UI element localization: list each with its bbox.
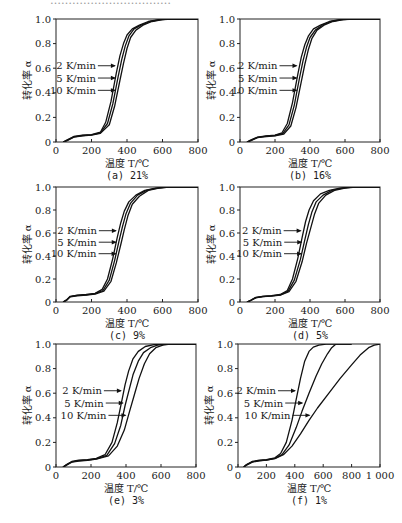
legend-label: 10 K/min bbox=[245, 410, 291, 421]
x-tick-label: 800 bbox=[186, 470, 205, 481]
y-tick-label: 1.0 bbox=[35, 182, 51, 193]
y-tick-label: 0 bbox=[45, 297, 51, 308]
y-tick-label: 0.2 bbox=[35, 274, 51, 285]
legend-label: 2 K/min bbox=[242, 225, 282, 236]
legend-label: 5 K/min bbox=[243, 237, 283, 248]
legend-label: 2 K/min bbox=[62, 385, 102, 396]
y-tick-label: 0.4 bbox=[219, 251, 235, 262]
x-tick-label: 400 bbox=[117, 305, 136, 316]
legend-label: 2 K/min bbox=[236, 385, 276, 396]
legend-label: 10 K/min bbox=[50, 85, 96, 96]
arrowhead-icon bbox=[117, 389, 122, 393]
y-tick-label: 0.8 bbox=[35, 363, 51, 374]
y-tick-label: 0.6 bbox=[35, 228, 51, 239]
x-tick-label: 600 bbox=[314, 470, 333, 481]
x-tick-label: 600 bbox=[153, 305, 172, 316]
x-tick-label: 200 bbox=[82, 305, 101, 316]
x-axis-label: 温度 T/℃ bbox=[104, 482, 148, 494]
x-axis-label: 温度 T/℃ bbox=[288, 157, 332, 169]
panel-caption: (c) 9% bbox=[109, 330, 145, 341]
arrowhead-icon bbox=[111, 64, 116, 68]
x-tick-label: 600 bbox=[335, 145, 354, 156]
x-tick-label: 0 bbox=[237, 145, 243, 156]
y-tick-label: 0.8 bbox=[219, 38, 235, 49]
y-tick-label: 0 bbox=[45, 137, 51, 148]
x-tick-label: 200 bbox=[265, 305, 284, 316]
panel-caption: (d) 5% bbox=[292, 330, 328, 341]
legend-label: 5 K/min bbox=[56, 73, 96, 84]
legend-label: 2 K/min bbox=[56, 60, 96, 71]
x-tick-label: 0 bbox=[53, 305, 59, 316]
x-tick-label: 600 bbox=[335, 305, 354, 316]
y-tick-label: 0 bbox=[229, 297, 235, 308]
figure-grid: 00.20.40.60.81.00200400600800温度 T/℃(a) 2… bbox=[0, 0, 402, 523]
x-axis-label: 温度 T/℃ bbox=[287, 482, 331, 494]
y-tick-label: 0.6 bbox=[219, 63, 235, 74]
y-tick-label: 0.2 bbox=[219, 112, 235, 123]
y-tick-label: 0.6 bbox=[35, 388, 51, 399]
legend-label: 2 K/min bbox=[57, 225, 97, 236]
chart-panel-b: 00.20.40.60.81.00200400600800温度 T/℃(b) 1… bbox=[205, 14, 390, 182]
x-axis-label: 温度 T/℃ bbox=[105, 317, 149, 329]
x-tick-label: 200 bbox=[265, 145, 284, 156]
y-tick-label: 1.0 bbox=[35, 14, 51, 25]
y-tick-label: 1.0 bbox=[217, 339, 233, 350]
y-tick-label: 0.4 bbox=[217, 412, 233, 423]
y-tick-label: 0.4 bbox=[35, 412, 51, 423]
arrowhead-icon bbox=[291, 389, 296, 393]
x-tick-label: 0 bbox=[237, 305, 243, 316]
y-axis-label: 转化率 α bbox=[205, 60, 217, 100]
x-tick-label: 800 bbox=[188, 145, 207, 156]
arrowhead-icon bbox=[298, 401, 303, 405]
chart-panel-f: 00.20.40.60.81.002004006008001 000温度 T/℃… bbox=[203, 339, 394, 507]
x-tick-label: 0 bbox=[53, 470, 59, 481]
x-tick-label: 400 bbox=[300, 305, 319, 316]
x-tick-label: 800 bbox=[342, 470, 361, 481]
panel-caption: (e) 3% bbox=[108, 495, 144, 506]
y-tick-label: 0.8 bbox=[217, 363, 233, 374]
x-axis-label: 温度 T/℃ bbox=[105, 157, 149, 169]
y-tick-label: 0.2 bbox=[217, 437, 233, 448]
legend-label: 5 K/min bbox=[64, 398, 104, 409]
y-tick-label: 0.2 bbox=[35, 437, 51, 448]
y-tick-label: 0.2 bbox=[219, 274, 235, 285]
chart-panel-e: 00.20.40.60.81.00200400600800温度 T/℃(e) 3… bbox=[21, 339, 206, 507]
x-axis-label: 温度 T/℃ bbox=[288, 317, 332, 329]
x-tick-label: 200 bbox=[81, 470, 100, 481]
y-tick-label: 0.2 bbox=[35, 112, 51, 123]
y-tick-label: 0.8 bbox=[219, 205, 235, 216]
x-tick-label: 600 bbox=[153, 145, 172, 156]
arrowhead-icon bbox=[112, 229, 117, 233]
y-tick-label: 0.6 bbox=[219, 228, 235, 239]
y-axis-label: 转化率 α bbox=[21, 224, 33, 264]
legend-label: 2 K/min bbox=[238, 60, 278, 71]
x-tick-label: 600 bbox=[151, 470, 170, 481]
y-tick-label: 0 bbox=[229, 137, 235, 148]
x-tick-label: 800 bbox=[370, 305, 389, 316]
y-tick-label: 0.6 bbox=[217, 388, 233, 399]
y-tick-label: 0.6 bbox=[35, 63, 51, 74]
y-tick-label: 0 bbox=[227, 462, 233, 473]
y-axis-label: 转化率 α bbox=[203, 385, 215, 425]
x-tick-label: 800 bbox=[370, 145, 389, 156]
x-tick-label: 1 000 bbox=[366, 470, 395, 481]
y-tick-label: 1.0 bbox=[35, 339, 51, 350]
chart-panel-d: 00.20.40.60.81.00200400600800温度 T/℃(d) 5… bbox=[205, 182, 390, 342]
panel-caption: (a) 21% bbox=[106, 170, 148, 181]
legend-label: 10 K/min bbox=[232, 85, 278, 96]
x-tick-label: 0 bbox=[235, 470, 241, 481]
legend-label: 10 K/min bbox=[61, 410, 107, 421]
x-tick-label: 400 bbox=[116, 470, 135, 481]
x-tick-label: 400 bbox=[117, 145, 136, 156]
y-axis-label: 转化率 α bbox=[21, 60, 33, 100]
arrowhead-icon bbox=[293, 64, 298, 68]
x-tick-label: 800 bbox=[188, 305, 207, 316]
y-tick-label: 0.8 bbox=[35, 38, 51, 49]
y-tick-label: 0.8 bbox=[35, 205, 51, 216]
arrowhead-icon bbox=[297, 229, 302, 233]
y-tick-label: 1.0 bbox=[219, 14, 235, 25]
legend-label: 10 K/min bbox=[236, 248, 282, 259]
panel-caption: (f) 1% bbox=[291, 495, 327, 506]
legend-label: 5 K/min bbox=[238, 73, 278, 84]
y-tick-label: 0.4 bbox=[35, 87, 51, 98]
